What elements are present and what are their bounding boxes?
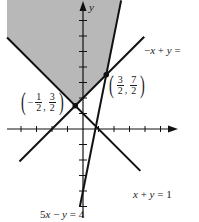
line-label-5x-minus-y: 5x − y = 4 bbox=[40, 209, 84, 220]
inequality-graph: y −x + y = x + y = 1 5x − y = 4 ( − 12 ,… bbox=[0, 0, 199, 222]
y-axis-label: y bbox=[89, 2, 94, 13]
line-label-neg-x-plus-y: −x + y = bbox=[144, 45, 181, 56]
x-axis-arrow-icon bbox=[168, 126, 178, 133]
point-label-neg-half-three-halves: ( − 12 , 32 ) bbox=[19, 89, 65, 115]
line-label-x-plus-y: x + y = 1 bbox=[133, 189, 172, 200]
point-label-three-halves-seven-halves: ( 32 , 72 ) bbox=[107, 72, 147, 98]
vertex-dot bbox=[72, 103, 78, 109]
